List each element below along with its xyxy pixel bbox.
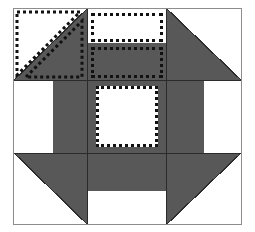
figure-canvas <box>0 0 255 232</box>
quilt-block-frame <box>13 8 242 225</box>
patch-middle-left[interactable] <box>14 80 87 153</box>
patch-top-right[interactable] <box>167 9 241 80</box>
seam-line-vertical-right <box>166 9 167 224</box>
seam-line-vertical-left <box>87 9 88 224</box>
patch-bottom-center-light-half <box>87 191 167 224</box>
patch-bottom-left[interactable] <box>14 153 87 224</box>
patch-top-center-light-half <box>87 9 167 43</box>
patch-top-center-dark-half <box>87 43 167 80</box>
seam-line-horizontal-lower <box>14 153 241 154</box>
patch-center-light-square <box>96 86 158 147</box>
quilt-block-canvas <box>14 9 241 224</box>
patch-center[interactable] <box>87 80 167 153</box>
patch-middle-left-dark-bar <box>53 80 87 153</box>
seam-line-horizontal-upper <box>14 80 241 81</box>
patch-bottom-center-dark-half <box>87 153 167 191</box>
patch-bottom-right[interactable] <box>167 153 241 224</box>
patch-bottom-center[interactable] <box>87 153 167 224</box>
patch-middle-right-light-half <box>204 80 241 153</box>
patch-top-center[interactable] <box>87 9 167 80</box>
patch-middle-right-dark-bar <box>167 80 204 153</box>
patch-middle-right[interactable] <box>167 80 241 153</box>
patch-top-left[interactable] <box>14 9 87 80</box>
patch-middle-left-light-half <box>14 80 53 153</box>
